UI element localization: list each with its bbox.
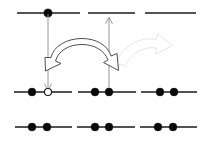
bottom-segment-1-dot-2 bbox=[43, 123, 51, 131]
ghost-curved-block-arrow bbox=[117, 34, 173, 67]
middle-segment-3-dot-2 bbox=[170, 88, 178, 96]
down-guide-arrow bbox=[45, 14, 52, 91]
primary-curved-block-arrow-body bbox=[45, 39, 119, 72]
bottom-row bbox=[15, 123, 197, 131]
middle-row bbox=[14, 88, 197, 96]
middle-segment-1-dot-1 bbox=[28, 88, 36, 96]
diagram-svg bbox=[0, 0, 201, 148]
bottom-segment-3-dot-2 bbox=[169, 123, 177, 131]
bottom-segment-1-dot-1 bbox=[28, 123, 36, 131]
diagram-canvas bbox=[0, 0, 201, 148]
ghost-curved-block-arrow-body bbox=[117, 34, 173, 67]
middle-segment-2-dot-2 bbox=[105, 88, 113, 96]
middle-segment-3-dot-1 bbox=[156, 88, 164, 96]
bottom-segment-2-dot-2 bbox=[105, 123, 113, 131]
middle-segment-2-dot-1 bbox=[91, 88, 99, 96]
primary-curved-block-arrow bbox=[45, 39, 119, 72]
bottom-segment-2-dot-1 bbox=[91, 123, 99, 131]
top-row bbox=[17, 9, 196, 17]
bottom-segment-3-dot-1 bbox=[154, 123, 162, 131]
middle-segment-1-dot-2-hollow bbox=[45, 89, 52, 96]
